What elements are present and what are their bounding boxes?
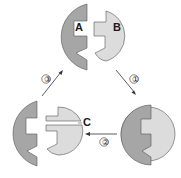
product-piece-lower [46,125,83,155]
step-2-label: ② [102,138,109,147]
top-stage: A B [61,4,125,70]
substrate-b-shape [94,11,125,61]
bound-enzyme-shape [121,105,151,165]
bottom-right-stage [121,105,175,165]
step-1-label: ① [132,75,139,84]
step-3-label: ③ [44,75,51,84]
arrow-step-3: ③ [42,70,63,96]
bottom-left-stage: C [13,101,91,166]
label-enzyme-a: A [75,21,83,33]
label-product-c: C [83,116,91,128]
product-piece-upper [46,107,81,121]
arrow-step-2: ② [85,132,117,147]
enzyme-cycle-diagram: A B ① ② C ③ [0,0,181,178]
released-enzyme-shape [13,101,37,166]
arrow-step-1: ① [116,70,139,95]
label-substrate-b: B [113,21,121,33]
enzyme-a-shape [61,4,87,70]
